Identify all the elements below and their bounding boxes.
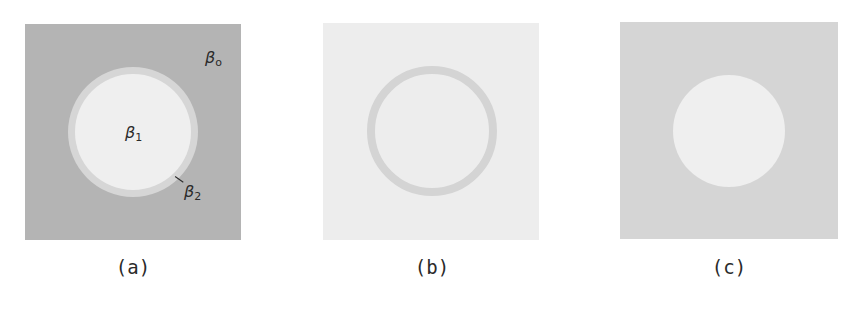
- label-beta-o-symbol: β: [205, 48, 215, 67]
- label-beta-1-subscript: 1: [135, 131, 142, 144]
- label-beta-2-symbol: β: [184, 182, 194, 201]
- label-beta-o: βo: [205, 50, 222, 68]
- caption-c: (c): [699, 258, 759, 277]
- label-beta-2: β2: [184, 184, 201, 202]
- figure: βo β1 β2 (a) (b) (c): [0, 0, 855, 311]
- panel-b-ring: [367, 66, 497, 196]
- label-beta-1-symbol: β: [125, 123, 135, 142]
- caption-a: (a): [103, 258, 163, 277]
- label-beta-o-subscript: o: [215, 56, 222, 69]
- caption-b: (b): [402, 258, 462, 277]
- label-beta-2-subscript: 2: [194, 190, 201, 203]
- label-beta-1: β1: [125, 125, 142, 143]
- panel-c-disc: [673, 75, 785, 187]
